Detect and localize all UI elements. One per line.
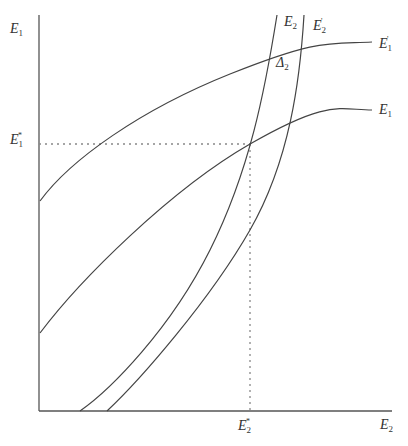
label-e2-prime: E2' (313, 18, 323, 35)
label-e1-prime: E1' (379, 36, 389, 53)
y-tick-e1-star: E1* (10, 132, 22, 149)
annotation-delta2: Δ2 (276, 56, 289, 72)
label-e1: E1 (379, 103, 392, 119)
label-e2: E2 (284, 15, 297, 31)
diagram-canvas (0, 0, 408, 446)
y-axis-label: E1 (10, 22, 23, 38)
curve-e1-prime (40, 42, 372, 201)
curve-e2-prime (107, 15, 304, 411)
curve-e1 (40, 109, 372, 333)
curve-e2 (80, 15, 277, 411)
x-tick-e2-star: E2* (238, 418, 250, 435)
x-axis-label: E2 (380, 418, 393, 434)
